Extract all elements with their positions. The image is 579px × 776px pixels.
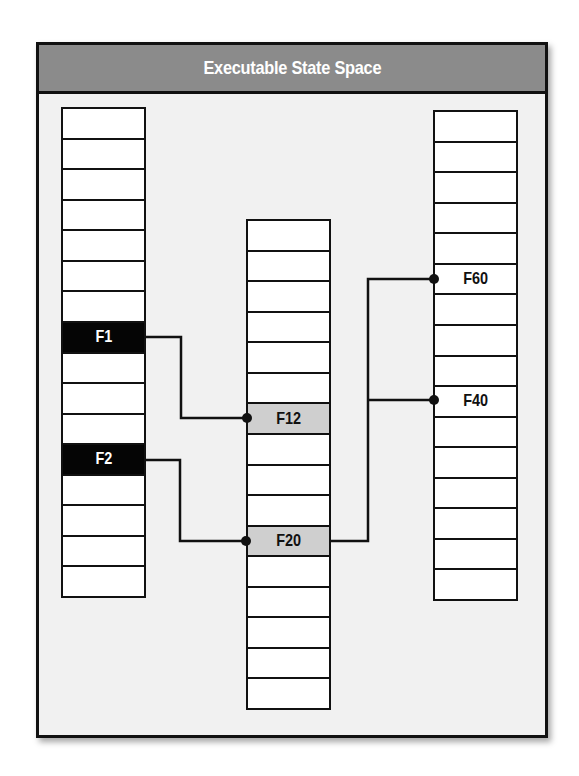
state-cell-f12: F12 — [248, 404, 329, 435]
state-cell — [248, 618, 329, 649]
state-cell — [248, 343, 329, 374]
state-cell — [248, 252, 329, 283]
state-cell — [435, 570, 516, 599]
state-cell — [435, 204, 516, 235]
state-cell-label: F1 — [95, 327, 112, 347]
state-cell — [435, 357, 516, 388]
state-cell — [63, 231, 144, 262]
state-cell-f20: F20 — [248, 527, 329, 558]
state-cell — [435, 234, 516, 265]
state-cell — [248, 221, 329, 252]
state-cell-label: F20 — [276, 531, 301, 551]
middle-state-column: F12F20 — [246, 219, 331, 710]
state-cell — [248, 374, 329, 405]
state-cell — [435, 509, 516, 540]
right-state-column: F60F40 — [433, 110, 518, 601]
state-cell — [248, 466, 329, 497]
state-cell-label: F2 — [95, 449, 112, 469]
state-cell-f1: F1 — [63, 323, 144, 354]
title-bar: Executable State Space — [39, 45, 545, 94]
diagram-title: Executable State Space — [203, 57, 381, 79]
state-cell-f60: F60 — [435, 265, 516, 296]
state-cell — [63, 537, 144, 568]
state-cell-label: F12 — [276, 409, 301, 429]
state-cell — [248, 649, 329, 680]
state-cell — [248, 588, 329, 619]
state-cell — [248, 313, 329, 344]
state-cell-label: F40 — [463, 391, 488, 411]
state-cell — [435, 479, 516, 510]
state-cell — [435, 173, 516, 204]
state-cell — [248, 557, 329, 588]
state-cell — [63, 506, 144, 537]
state-cell — [63, 567, 144, 596]
state-cell — [63, 354, 144, 385]
state-cell — [63, 415, 144, 446]
state-cell — [63, 476, 144, 507]
state-cell — [63, 109, 144, 140]
state-cell — [435, 418, 516, 449]
state-cell — [63, 292, 144, 323]
state-cell — [63, 384, 144, 415]
state-cell — [248, 435, 329, 466]
left-state-column: F1F2 — [61, 107, 146, 598]
state-cell — [63, 262, 144, 293]
state-cell — [248, 496, 329, 527]
state-cell-label: F60 — [463, 269, 488, 289]
state-cell — [63, 140, 144, 171]
state-cell — [435, 540, 516, 571]
state-cell — [435, 448, 516, 479]
state-cell — [63, 170, 144, 201]
state-cell — [248, 679, 329, 708]
state-cell — [435, 112, 516, 143]
state-cell — [63, 201, 144, 232]
state-cell — [435, 295, 516, 326]
state-cell-f2: F2 — [63, 445, 144, 476]
state-cell — [435, 326, 516, 357]
state-cell — [248, 282, 329, 313]
state-cell — [435, 143, 516, 174]
state-cell-f40: F40 — [435, 387, 516, 418]
